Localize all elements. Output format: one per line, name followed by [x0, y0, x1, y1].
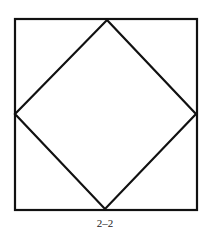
inner-diamond: [15, 20, 196, 209]
figure-caption: 2–2: [0, 217, 210, 229]
outer-square: [15, 19, 197, 210]
square-diamond-diagram: [0, 0, 210, 242]
